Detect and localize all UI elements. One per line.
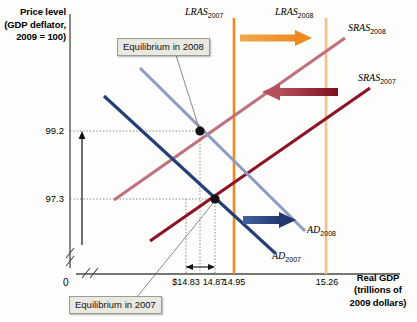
equilibrium-point-2008 bbox=[195, 126, 204, 135]
y-axis-title-line-2: (GDP deflator, bbox=[2, 19, 66, 32]
equilibrium-point-2007 bbox=[210, 194, 219, 203]
curve-label-sras-2008-base: SRAS bbox=[348, 22, 370, 33]
curve-label-lras-2007-sub: 2007 bbox=[208, 12, 224, 19]
real-gdp-change-arrow bbox=[186, 264, 215, 270]
curve-label-ad-2007: AD2007 bbox=[272, 250, 301, 263]
x-axis-title-line-1: Real GDP bbox=[340, 272, 416, 284]
curve-sras-2008 bbox=[114, 38, 345, 200]
curve-label-lras-2008-sub: 2008 bbox=[298, 12, 314, 19]
callout-equilibrium-2008: Equilibrium in 2008 bbox=[117, 38, 210, 56]
curve-label-lras-2008: LRAS2008 bbox=[275, 6, 313, 19]
curve-label-ad-2008-base: AD bbox=[307, 224, 320, 235]
y-axis-title-line-3: 2009 = 100) bbox=[2, 31, 66, 44]
curve-label-lras-2007-base: LRAS bbox=[185, 6, 208, 17]
x-axis-title-line-2: (trillions of bbox=[340, 284, 416, 296]
chart-canvas: Price level (GDP deflator, 2009 = 100) R… bbox=[0, 0, 417, 322]
x-tick-15-26: 15.26 bbox=[306, 277, 348, 287]
curve-label-ad-2008-sub: 2008 bbox=[320, 230, 336, 237]
x-axis-title-line-3: 2009 dollars) bbox=[340, 297, 416, 309]
x-axis-title: Real GDP (trillions of 2009 dollars) bbox=[340, 272, 416, 309]
y-tick-99-2: 99.2 bbox=[24, 125, 64, 136]
curve-label-ad-2007-base: AD bbox=[272, 250, 285, 261]
y-tick-97-3: 97.3 bbox=[24, 193, 64, 204]
guide-lines bbox=[70, 131, 215, 274]
y-axis-title-line-1: Price level bbox=[2, 6, 66, 19]
curve-label-sras-2008: SRAS2008 bbox=[348, 22, 386, 35]
lras-shift-arrow bbox=[240, 30, 312, 46]
curve-label-lras-2008-base: LRAS bbox=[275, 6, 298, 17]
curve-label-ad-2007-sub: 2007 bbox=[285, 256, 301, 263]
curve-label-ad-2008: AD2008 bbox=[307, 224, 336, 237]
curve-label-sras-2007-base: SRAS bbox=[358, 72, 380, 83]
curve-label-sras-2007-sub: 2007 bbox=[380, 78, 396, 85]
price-level-change-arrow bbox=[79, 131, 86, 245]
curve-label-lras-2007: LRAS2007 bbox=[185, 6, 223, 19]
origin-label: 0 bbox=[63, 277, 69, 288]
y-axis-title: Price level (GDP deflator, 2009 = 100) bbox=[2, 6, 66, 44]
curve-label-sras-2007: SRAS2007 bbox=[358, 72, 396, 85]
curve-label-sras-2008-sub: 2008 bbox=[370, 28, 386, 35]
callout-equilibrium-2007: Equilibrium in 2007 bbox=[69, 296, 162, 314]
x-tick-14-95: 14.95 bbox=[213, 277, 255, 287]
